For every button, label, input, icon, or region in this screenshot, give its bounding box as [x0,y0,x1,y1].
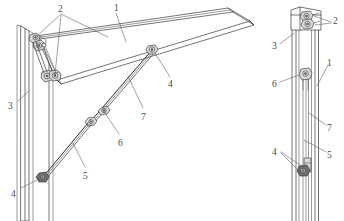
awning-panel-right [312,30,319,221]
technical-drawing-canvas [0,0,344,221]
callout-left-4-upper: 4 [168,80,173,90]
callout-left-4-lower: 4 [11,190,16,200]
callout-left-1: 1 [114,4,119,14]
callout-left-7: 7 [141,113,146,123]
callout-right-4: 4 [272,148,277,158]
callout-right-1: 1 [327,59,332,69]
window-frame-jamb-left [17,25,33,221]
callout-left-2: 2 [58,5,63,15]
callout-left-6: 6 [118,139,123,149]
callout-right-2: 2 [333,17,338,27]
stay-arm-rails-right [303,70,309,221]
stay-arm-slider-right [299,68,312,90]
lower-hinge-bracket-left [41,70,61,82]
window-frame-jamb-right [292,30,299,221]
callout-right-6: 6 [272,80,277,90]
right-view [280,7,331,221]
callout-right-7: 7 [327,124,332,134]
callout-left-5: 5 [83,172,88,182]
stay-arm-slider-left [98,106,110,115]
patent-figure: 2 1 4 7 3 6 5 4 2 3 1 6 7 5 4 [0,0,344,221]
frame-slider-shoe-left [36,172,49,182]
callout-left-3: 3 [8,102,13,112]
panel-edge-return-left [57,80,61,84]
callout-right-5: 5 [327,151,332,161]
panel-pivot-joint-left [146,45,158,54]
leader-lines-right [280,16,331,173]
upper-hinge-bracket-right [291,7,321,30]
callout-right-3: 3 [272,42,277,52]
left-view [17,8,254,221]
awning-panel-left [36,8,254,84]
